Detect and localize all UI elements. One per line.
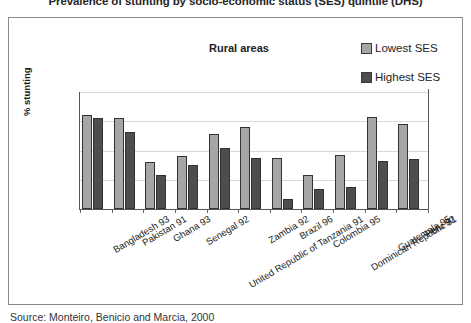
plot-right-axis [428,89,429,209]
bar-lowest-ses[interactable] [272,158,282,209]
bar-lowest-ses[interactable] [240,127,250,209]
bar-highest-ses[interactable] [188,165,198,209]
bar-group[interactable] [112,92,144,209]
bar-lowest-ses[interactable] [82,115,92,209]
bar-highest-ses[interactable] [409,159,419,209]
legend-item-highest-ses: Highest SES [361,71,440,83]
bar-lowest-ses[interactable] [398,124,408,209]
legend-swatch-highest-icon [361,72,372,83]
legend-label-lowest: Lowest SES [375,42,438,54]
bar-lowest-ses[interactable] [303,175,313,209]
chart-frame: Rural areas Lowest SES Highest SES % stu… [8,17,463,305]
bar-highest-ses[interactable] [378,161,388,209]
bars-layer [80,92,428,209]
bar-highest-ses[interactable] [251,158,261,209]
bar-highest-ses[interactable] [346,187,356,209]
plot-area: 020406080 [79,92,428,210]
bar-highest-ses[interactable] [156,175,166,209]
y-axis-title: % stunting [21,67,32,116]
figure-title: Prevalence of stunting by socio-economic… [0,0,471,7]
bar-group[interactable] [333,92,365,209]
bar-group[interactable] [175,92,207,209]
bar-group[interactable] [270,92,302,209]
bar-highest-ses[interactable] [220,148,230,209]
bar-lowest-ses[interactable] [335,155,345,209]
bar-highest-ses[interactable] [283,199,293,209]
bar-group[interactable] [143,92,175,209]
source-caption: Source: Monteiro, Benicio and Marcia, 20… [10,311,214,323]
bar-group[interactable] [80,92,112,209]
bar-group[interactable] [301,92,333,209]
bar-group[interactable] [238,92,270,209]
bar-group[interactable] [365,92,397,209]
bar-highest-ses[interactable] [314,189,324,209]
bar-lowest-ses[interactable] [177,156,187,209]
bar-lowest-ses[interactable] [367,117,377,209]
legend-label-highest: Highest SES [375,71,440,83]
bar-lowest-ses[interactable] [209,134,219,209]
legend-swatch-lowest-icon [361,43,372,54]
bar-group[interactable] [207,92,239,209]
x-axis-tick-labels: Bangladesh 93Pakistan 91Ghana 93Senegal … [79,211,471,311]
bar-highest-ses[interactable] [125,132,135,210]
x-tick-label: Senegal 92 [204,213,251,247]
bar-highest-ses[interactable] [93,118,103,209]
bar-group[interactable] [396,92,428,209]
bar-lowest-ses[interactable] [145,162,155,209]
bar-lowest-ses[interactable] [114,118,124,209]
chart-subtitle: Rural areas [149,42,329,54]
legend-item-lowest-ses: Lowest SES [361,42,438,54]
